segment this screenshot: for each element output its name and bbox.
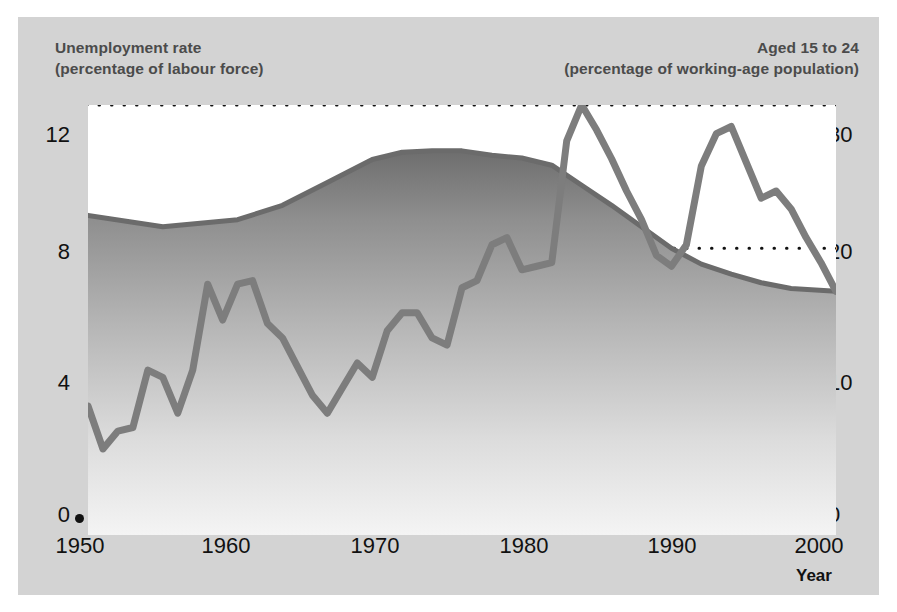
header-right: Aged 15 to 24 (percentage of working-age… (564, 37, 859, 79)
y-axis-left-tick-4: 4 (32, 370, 70, 396)
y-axis-left-tick-12: 12 (32, 122, 70, 148)
x-axis-tick-1990: 1990 (627, 533, 717, 559)
x-axis-tick-1950: 1950 (35, 533, 125, 559)
figure-root: Unemployment rate (percentage of labour … (0, 0, 897, 612)
header-right-line1: Aged 15 to 24 (564, 37, 859, 58)
chart-svg (88, 105, 836, 535)
y-axis-left-tick-0: 0 (32, 502, 70, 528)
header-left-line2: (percentage of labour force) (55, 58, 264, 79)
header-right-line2: (percentage of working-age population) (564, 58, 859, 79)
y-axis-left-tick-8: 8 (32, 239, 70, 265)
header-left-line1: Unemployment rate (55, 37, 264, 58)
plot-area (88, 105, 836, 535)
x-axis-tick-1980: 1980 (479, 533, 569, 559)
x-axis-tick-1970: 1970 (330, 533, 420, 559)
x-axis-tick-1960: 1960 (181, 533, 271, 559)
header-left: Unemployment rate (percentage of labour … (55, 37, 264, 79)
chart-panel: Unemployment rate (percentage of labour … (18, 17, 879, 595)
x-axis-title: Year (796, 566, 832, 586)
x-tick-dot-1950 (75, 514, 84, 523)
x-axis-tick-2000: 2000 (774, 533, 864, 559)
